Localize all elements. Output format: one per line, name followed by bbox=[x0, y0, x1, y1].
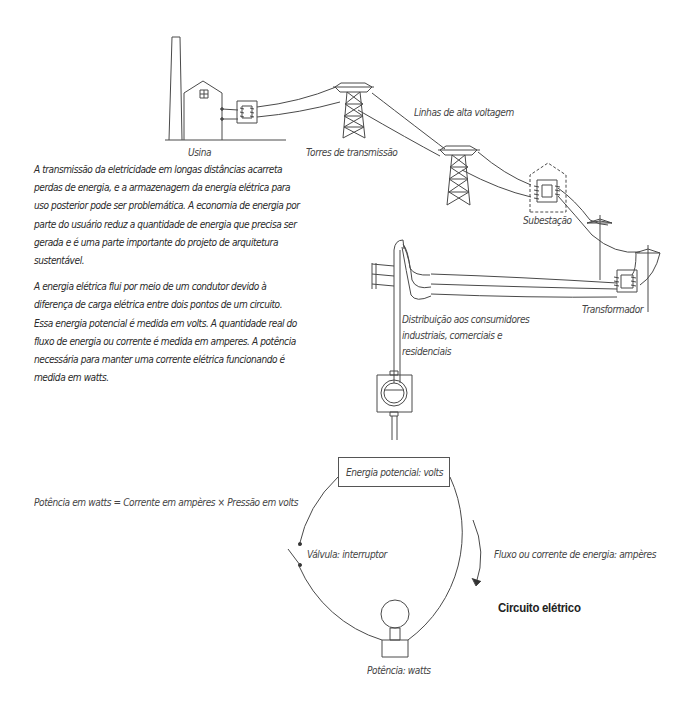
distribution-label-line3: residenciais bbox=[402, 345, 451, 358]
distribution-label-line2: industriais, comerciais e bbox=[402, 329, 502, 342]
service-riser-icon bbox=[372, 240, 431, 383]
substation-icon bbox=[530, 163, 566, 212]
paragraph-transmission: A transmissão da eletricidade em longas … bbox=[34, 160, 301, 269]
plant-transformer-icon bbox=[237, 101, 257, 123]
load-label: Potência: watts bbox=[367, 664, 431, 677]
switch-icon bbox=[288, 542, 302, 566]
utility-pole-icon bbox=[632, 245, 660, 312]
switch-label: Válvula: interruptor bbox=[307, 548, 387, 561]
chimney-icon bbox=[169, 37, 182, 140]
distribution-label-line1: Distribuição aos consumidores bbox=[402, 313, 529, 326]
utility-pole-icon bbox=[587, 215, 612, 280]
flow-label: Fluxo ou corrente de energia: ampères bbox=[494, 548, 656, 561]
text-block: A transmissão da eletricidade em longas … bbox=[34, 160, 301, 386]
high-voltage-lines-label: Linhas de alta voltagem bbox=[414, 106, 514, 119]
circuit-title: Circuito elétrico bbox=[498, 600, 581, 615]
current-flow-arrow-icon bbox=[472, 520, 481, 586]
paragraph-circuit: A energia elétrica flui por meio de um c… bbox=[34, 277, 301, 386]
potential-energy-label: Energia potencial: volts bbox=[345, 466, 442, 478]
towers-label: Torres de transmissão bbox=[306, 146, 398, 159]
potential-energy-box: Energia potencial: volts bbox=[338, 457, 450, 487]
lamp-load-icon bbox=[381, 600, 409, 657]
substation-label: Subestação bbox=[523, 214, 572, 227]
plant-label: Usina bbox=[188, 146, 211, 159]
power-plant-icon bbox=[165, 81, 286, 140]
power-formula: Potência em watts = Corrente em ampères … bbox=[34, 496, 298, 508]
transmission-tower-icon bbox=[333, 83, 374, 138]
transformer-label: Transformador bbox=[582, 303, 643, 316]
